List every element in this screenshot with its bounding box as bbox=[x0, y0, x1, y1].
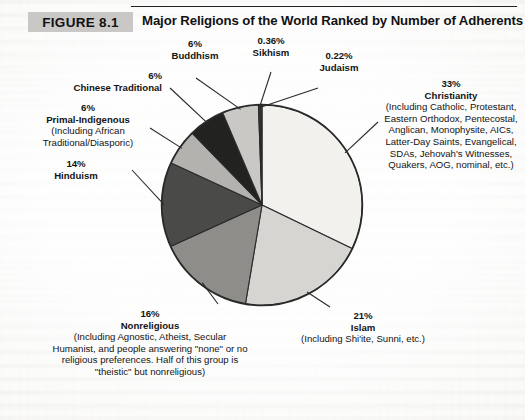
leader-line-christianity bbox=[345, 122, 378, 153]
title-divider bbox=[131, 6, 517, 7]
callout-primal-indigenous-name: Primal-Indigenous bbox=[14, 114, 162, 126]
leader-line-islam bbox=[307, 292, 330, 307]
callout-islam: 21% Islam (Including Shi'ite, Sunni, etc… bbox=[300, 310, 426, 345]
callout-islam-detail: (Including Shi'ite, Sunni, etc.) bbox=[300, 333, 426, 345]
callout-chinese-traditional-percent: 6% bbox=[22, 70, 162, 82]
callout-nonreligious: 16% Nonreligious (Including Agnostic, At… bbox=[52, 308, 248, 378]
callout-judaism: 0.22% Judaism bbox=[303, 50, 375, 73]
callout-christianity: 33% Christianity (Including Catholic, Pr… bbox=[380, 78, 522, 171]
callout-islam-percent: 21% bbox=[300, 310, 426, 322]
callout-buddhism-name: Buddhism bbox=[152, 50, 238, 62]
callout-hinduism-name: Hinduism bbox=[22, 170, 130, 182]
leader-line-hinduism bbox=[132, 170, 164, 205]
callout-primal-indigenous: 6% Primal-Indigenous (Including African … bbox=[14, 102, 162, 148]
callout-buddhism: 6% Buddhism bbox=[152, 38, 238, 61]
callout-nonreligious-percent: 16% bbox=[52, 308, 248, 320]
leader-line-buddhism bbox=[196, 78, 241, 109]
pie-slice-group bbox=[162, 105, 362, 305]
figure-number-badge: FIGURE 8.1 bbox=[28, 12, 133, 32]
callout-christianity-percent: 33% bbox=[380, 78, 522, 90]
figure-number-label: FIGURE 8.1 bbox=[28, 12, 133, 32]
callout-primal-indigenous-detail: (Including African Traditional/Diasporic… bbox=[14, 125, 162, 148]
leader-line-sikhism bbox=[260, 72, 271, 107]
callout-islam-name: Islam bbox=[300, 322, 426, 334]
callout-hinduism: 14% Hinduism bbox=[22, 158, 130, 181]
callout-judaism-name: Judaism bbox=[303, 62, 375, 74]
callout-chinese-traditional: 6% Chinese Traditional bbox=[22, 70, 162, 93]
leader-line-judaism bbox=[261, 88, 318, 107]
callout-nonreligious-name: Nonreligious bbox=[52, 320, 248, 332]
callout-sikhism-name: Sikhism bbox=[238, 47, 304, 59]
callout-chinese-traditional-name: Chinese Traditional bbox=[22, 82, 162, 94]
figure-sheet: FIGURE 8.1 Major Religions of the World … bbox=[0, 0, 525, 420]
callout-buddhism-percent: 6% bbox=[152, 38, 238, 50]
callout-nonreligious-detail: (Including Agnostic, Atheist, Secular Hu… bbox=[52, 331, 248, 377]
chart-stage: 6% Buddhism 0.36% Sikhism 0.22% Judaism … bbox=[0, 30, 525, 420]
callout-judaism-percent: 0.22% bbox=[303, 50, 375, 62]
callout-christianity-name: Christianity bbox=[380, 90, 522, 102]
callout-sikhism-percent: 0.36% bbox=[238, 35, 304, 47]
callout-hinduism-percent: 14% bbox=[22, 158, 130, 170]
leader-line-chinese-traditional bbox=[170, 88, 208, 123]
callout-christianity-detail: (Including Catholic, Protestant, Eastern… bbox=[380, 101, 522, 171]
callout-sikhism: 0.36% Sikhism bbox=[238, 35, 304, 58]
figure-title: Major Religions of the World Ranked by N… bbox=[142, 11, 512, 31]
callout-primal-indigenous-percent: 6% bbox=[14, 102, 162, 114]
